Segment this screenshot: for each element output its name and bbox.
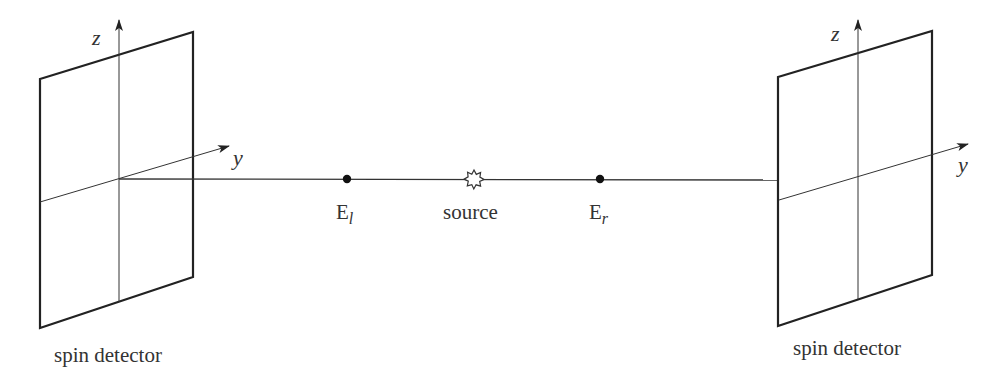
spin-detector-diagram: z y spin detector El source Er z y spin … bbox=[0, 0, 995, 382]
point-dot-right bbox=[596, 175, 604, 183]
left-detector: z y spin detector bbox=[40, 20, 243, 367]
emission-point-right: Er bbox=[589, 175, 609, 227]
left-detector-label: spin detector bbox=[54, 343, 162, 367]
right-detector-frame bbox=[778, 31, 932, 326]
emission-point-left: El bbox=[336, 175, 354, 227]
right-y-label: y bbox=[956, 152, 968, 177]
label-e-right: Er bbox=[589, 200, 609, 227]
source: source bbox=[443, 170, 498, 224]
left-z-label: z bbox=[91, 25, 101, 50]
right-z-label: z bbox=[830, 21, 840, 46]
left-y-label: y bbox=[231, 145, 243, 170]
right-detector: z y spin detector bbox=[778, 20, 968, 360]
beam-line bbox=[119, 179, 778, 180]
star-burst-icon bbox=[464, 170, 484, 189]
right-detector-label: spin detector bbox=[793, 336, 901, 360]
point-dot-left bbox=[343, 175, 351, 183]
source-label: source bbox=[443, 200, 498, 224]
left-detector-frame bbox=[40, 32, 193, 328]
label-e-left: El bbox=[336, 200, 354, 227]
